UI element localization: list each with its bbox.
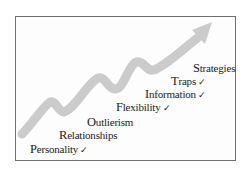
step-initial: F: [116, 100, 123, 114]
step-label: ersonality: [37, 143, 78, 155]
step-label: utlierism: [96, 116, 133, 128]
step-label: raps: [178, 75, 196, 87]
step-initial: P: [30, 142, 37, 156]
step-relationships: Relationships: [59, 129, 117, 142]
check-icon: ✓: [80, 145, 88, 155]
step-initial: R: [59, 128, 67, 142]
check-icon: ✓: [163, 103, 171, 113]
step-strategies: Strategies: [193, 62, 235, 75]
step-initial: S: [193, 61, 200, 75]
step-initial: O: [87, 115, 96, 129]
step-label: nformation: [149, 88, 196, 100]
step-information: Information✓: [145, 88, 206, 101]
check-icon: ✓: [198, 90, 206, 100]
step-personality: Personality✓: [30, 143, 88, 156]
step-label: lexibility: [123, 101, 161, 113]
step-flexibility: Flexibility✓: [116, 101, 170, 114]
check-icon: ✓: [198, 77, 206, 87]
step-traps: Traps✓: [171, 75, 206, 88]
step-outlierism: Outlierism: [87, 116, 133, 129]
step-label: elationships: [67, 129, 117, 141]
step-label: trategies: [200, 62, 235, 74]
